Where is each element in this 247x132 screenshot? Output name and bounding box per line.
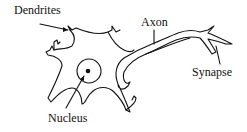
synapse-pointer [216,46,220,64]
synapse-label: Synapse [192,66,232,78]
neuron-diagram: Dendrites Axon Synapse Nucleus [0,0,247,132]
dendrite-upper-left [68,26,120,34]
dendrites-label: Dendrites [14,4,61,16]
dendrite-lower-right [126,96,136,110]
axon-label: Axon [141,16,168,28]
nucleus-label: Nucleus [48,112,87,124]
dendrite-top-right [108,32,134,52]
axon-line [146,38,190,54]
nucleus-pointer [66,76,84,108]
nucleolus [86,69,91,74]
